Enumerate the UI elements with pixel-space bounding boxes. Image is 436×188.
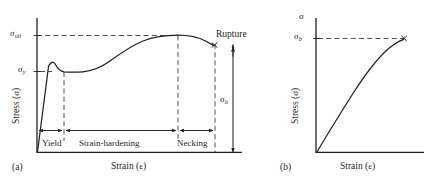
panel-a-axes bbox=[37, 18, 242, 153]
stress-strain-figure: σult σy Stress (σ) Strain (ε) Yield Stra… bbox=[0, 0, 436, 188]
sigma-ult-subscript: ult bbox=[15, 32, 22, 39]
sigma-b-subscript: b bbox=[225, 98, 228, 105]
panel-b-y-axis-title: Stress (σ) bbox=[291, 88, 301, 124]
panel-b-sigma-b-tick-label: σb bbox=[294, 32, 302, 41]
sigma-y-tick-label: σy bbox=[18, 65, 25, 74]
region-label-yield: Yield bbox=[42, 139, 62, 148]
sigma-b-dimension-label: σb bbox=[220, 95, 228, 104]
panel-b-axis-top-symbol: σ bbox=[299, 12, 304, 21]
rupture-label: Rupture bbox=[216, 30, 247, 40]
sigma-y-subscript: y bbox=[23, 68, 26, 75]
region-label-necking: Necking bbox=[177, 139, 208, 148]
panel-b-sigma-b-subscript: b bbox=[299, 35, 302, 42]
panel-b-tag: (b) bbox=[280, 163, 291, 173]
panel-b-sigma-b-symbol: σ bbox=[294, 31, 298, 41]
sigma-y-symbol: σ bbox=[18, 64, 22, 74]
brittle-stress-strain-curve bbox=[317, 36, 407, 152]
panel-a-y-axis-title: Stress (σ) bbox=[12, 88, 22, 124]
panel-a-x-axis-title: Strain (ε) bbox=[111, 162, 146, 172]
sigma-ult-tick-label: σult bbox=[10, 29, 21, 38]
region-label-strain-hardening: Strain-hardening bbox=[79, 139, 139, 148]
panel-a-guides bbox=[34, 36, 216, 153]
sigma-b-symbol: σ bbox=[220, 94, 224, 104]
panel-b-x-axis-title: Strain (ε) bbox=[340, 162, 375, 172]
ductile-stress-strain-curve bbox=[38, 35, 218, 152]
panel-a-tag: (a) bbox=[12, 163, 23, 173]
sigma-ult-symbol: σ bbox=[10, 28, 14, 38]
